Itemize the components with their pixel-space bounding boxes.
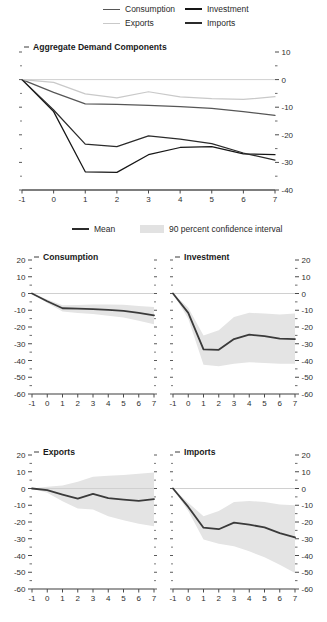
legend-item-exports: Exports [103,18,154,28]
y-tick-label: -20 [14,518,26,527]
y-tick-label: 10 [17,273,26,282]
plot-title: Imports [184,447,216,457]
y-tick-label: -30 [14,535,26,544]
x-tick-label: 3 [232,594,237,603]
x-tick-label: 0 [186,399,191,408]
legend-item-confidence-interval: 90 percent confidence interval [140,224,282,234]
x-tick-label: 3 [232,399,237,408]
legend-swatch-imports [185,22,202,24]
y-tick-label: -30 [302,535,314,544]
x-tick-label: 6 [241,195,246,204]
confidence-band [32,473,154,527]
x-tick-label: 0 [45,399,50,408]
legend-swatch-consumption [103,9,120,10]
y-tick-label: 20 [302,451,311,460]
chart-aggregate-demand-components: 100-10-20-30-40-101234567Aggregate Deman… [0,40,327,220]
plot-title: Exports [43,447,75,457]
x-tick-label: 5 [121,594,126,603]
y-tick-label: -10 [14,306,26,315]
y-tick-label: -50 [14,568,26,577]
x-tick-label: -1 [169,399,177,408]
x-tick-label: 1 [60,399,65,408]
y-tick-label: -60 [14,390,26,399]
y-tick-label: -50 [302,373,314,382]
x-tick-label: 7 [152,594,157,603]
y-tick-label: 0 [21,485,26,494]
y-tick-label: 10 [302,273,311,282]
y-tick-label: -30 [14,340,26,349]
y-tick-label: -50 [302,568,314,577]
x-tick-label: 7 [273,195,278,204]
x-tick-label: 1 [83,195,88,204]
x-tick-label: 1 [201,399,206,408]
legend-label-imports: Imports [207,18,235,28]
legend-swatch-confidence-interval [140,225,164,233]
y-tick-label: -30 [282,158,294,167]
y-tick-label: 20 [302,256,311,265]
y-tick-label: 20 [17,451,26,460]
y-tick-label: -40 [302,552,314,561]
x-tick-label: 3 [146,195,151,204]
legend-swatch-investment [185,8,202,10]
x-tick-label: -1 [28,399,36,408]
y-tick-label: -40 [302,357,314,366]
y-tick-label: -40 [282,186,294,195]
y-tick-label: -60 [14,585,26,594]
legend-item-consumption: Consumption [103,4,175,14]
y-tick-label: -20 [302,323,314,332]
x-tick-label: 4 [106,399,111,408]
y-tick-label: 10 [302,468,311,477]
x-tick-label: 6 [278,594,283,603]
x-tick-label: 3 [91,594,96,603]
y-tick-label: -20 [302,518,314,527]
aggregate-demand-plot-area: 100-10-20-30-40-101234567Aggregate Deman… [0,40,327,220]
y-tick-label: -60 [302,390,314,399]
y-tick-label: -30 [302,340,314,349]
y-tick-label: 0 [21,290,26,299]
x-tick-label: 2 [76,594,81,603]
chart-exports: 20100-10-20-30-40-50-60-101234567Exports [0,437,164,617]
mid-legend: Mean 90 percent confidence interval [0,222,327,242]
legend-label-confidence-interval: 90 percent confidence interval [169,224,282,234]
top-legend: Consumption Investment Exports Imports [0,0,327,34]
x-tick-label: 4 [247,399,252,408]
x-tick-label: 2 [217,399,222,408]
x-tick-label: 4 [106,594,111,603]
x-tick-label: 6 [137,594,142,603]
x-tick-label: -1 [169,594,177,603]
x-tick-label: 1 [201,594,206,603]
legend-label-consumption: Consumption [125,4,175,14]
legend-item-imports: Imports [185,18,235,28]
x-tick-label: 5 [262,594,267,603]
legend-swatch-exports [103,23,120,24]
x-tick-label: 0 [45,594,50,603]
x-tick-label: 7 [293,399,298,408]
y-tick-label: -10 [282,103,294,112]
series-line-exports [22,80,275,100]
plot-title: Consumption [43,252,98,262]
x-tick-label: 5 [121,399,126,408]
legend-item-investment: Investment [185,4,249,14]
confidence-band [173,294,295,367]
x-tick-label: 0 [51,195,56,204]
chart-consumption: 20100-10-20-30-40-50-60-101234567Consump… [0,248,164,420]
y-tick-label: -20 [14,323,26,332]
legend-label-exports: Exports [125,18,154,28]
confidence-band [173,489,295,574]
y-tick-label: -50 [14,373,26,382]
chart-imports: 20100-10-20-30-40-50-60-101234567Imports [163,437,327,617]
y-tick-label: -10 [14,501,26,510]
y-tick-label: 20 [17,256,26,265]
imports-plot-area: 20100-10-20-30-40-50-60-101234567Imports [163,437,327,617]
y-tick-label: 10 [282,48,291,57]
exports-plot-area: 20100-10-20-30-40-50-60-101234567Exports [0,437,164,617]
consumption-plot-area: 20100-10-20-30-40-50-60-101234567Consump… [0,248,164,420]
y-tick-label: 0 [282,76,287,85]
investment-plot-area: 20100-10-20-30-40-50-60-101234567Investm… [163,248,327,420]
x-tick-label: 6 [137,399,142,408]
x-tick-label: -1 [18,195,26,204]
legend-item-mean: Mean [72,224,115,234]
x-tick-label: 2 [217,594,222,603]
x-tick-label: 1 [60,594,65,603]
x-tick-label: 2 [115,195,120,204]
